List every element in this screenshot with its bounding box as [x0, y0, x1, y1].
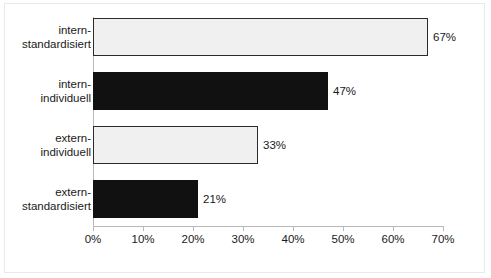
x-axis-tick [293, 227, 294, 231]
bar[interactable] [93, 72, 328, 110]
x-axis-tick [443, 227, 444, 231]
category-label: intern- individuell [0, 77, 91, 105]
bar[interactable] [93, 126, 258, 164]
plot-area: intern- standardisiert 67% intern- indiv… [5, 4, 486, 274]
x-axis-tick-label: 30% [231, 233, 254, 245]
bar-value-label: 47% [333, 85, 356, 97]
bar[interactable] [93, 180, 198, 218]
bar-value-label: 21% [203, 193, 226, 205]
x-axis-tick [93, 227, 94, 231]
x-axis-tick-label: 50% [331, 233, 354, 245]
x-axis-tick-label: 0% [85, 233, 102, 245]
x-axis-tick [193, 227, 194, 231]
x-axis-tick-label: 40% [281, 233, 304, 245]
x-axis-tick [343, 227, 344, 231]
bar-row: extern- individuell 33% [5, 126, 486, 164]
bar-value-label: 33% [263, 139, 286, 151]
category-label: extern- standardisiert [0, 185, 91, 213]
category-label: intern- standardisiert [0, 23, 91, 51]
bar-row: intern- standardisiert 67% [5, 18, 486, 56]
x-axis-tick [143, 227, 144, 231]
bar[interactable] [93, 18, 428, 56]
category-label: extern- individuell [0, 131, 91, 159]
x-axis-tick-label: 70% [431, 233, 454, 245]
chart-frame: intern- standardisiert 67% intern- indiv… [4, 3, 485, 273]
x-axis-tick-label: 60% [381, 233, 404, 245]
x-axis-tick-label: 20% [181, 233, 204, 245]
x-axis-tick-label: 10% [131, 233, 154, 245]
x-axis-line [93, 226, 444, 227]
bar-row: extern- standardisiert 21% [5, 180, 486, 218]
x-axis-tick [243, 227, 244, 231]
bar-value-label: 67% [433, 31, 456, 43]
x-axis-tick [393, 227, 394, 231]
bar-row: intern- individuell 47% [5, 72, 486, 110]
